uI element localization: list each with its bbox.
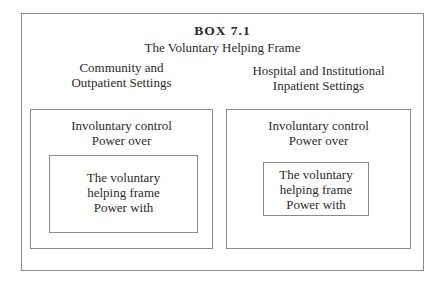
left-heading: Community and Outpatient Settings	[30, 60, 213, 90]
left-inner-text: The voluntary helping frame Power with	[49, 170, 198, 215]
box-label: BOX 7.1	[21, 23, 424, 38]
box-title: The Voluntary Helping Frame	[21, 40, 424, 55]
right-outer-text: Involuntary control Power over	[226, 118, 411, 148]
left-outer-text: Involuntary control Power over	[30, 118, 213, 148]
right-heading: Hospital and Institutional Inpatient Set…	[226, 63, 411, 93]
right-inner-text: The voluntary helping frame Power with	[263, 167, 369, 212]
